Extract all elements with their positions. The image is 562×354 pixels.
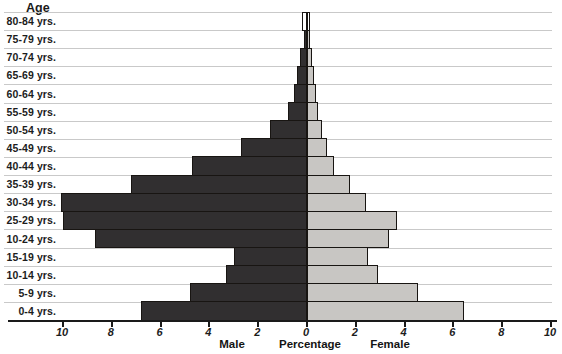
female-bar-50-54: [307, 120, 322, 139]
female-bar-0-4: [307, 301, 464, 320]
female-bar-45-49: [307, 138, 327, 157]
age-group-label: 40-44 yrs.: [0, 161, 56, 172]
age-group-label: 60-64 yrs.: [0, 88, 56, 99]
x-axis-line: [8, 320, 557, 322]
x-tick-label: 0: [294, 326, 318, 338]
female-bar-35-39: [307, 175, 350, 194]
female-bar-5-9: [307, 283, 418, 302]
row-gridline: [4, 48, 552, 49]
male-bar-55-59: [288, 102, 307, 121]
male-bar-65-69: [297, 66, 307, 85]
female-bar-10-14: [307, 265, 378, 284]
female-axis-label: Female: [370, 338, 410, 350]
female-bar-15-19: [307, 247, 368, 266]
male-bar-50-54: [270, 120, 307, 139]
female-bar-10-24: [307, 229, 389, 248]
age-group-label: 80-84 yrs.: [0, 16, 56, 27]
female-bar-65-69: [307, 66, 314, 85]
x-tick-label: 8: [489, 326, 513, 338]
male-bar-30-34: [61, 193, 307, 212]
age-group-label: 5-9 yrs.: [0, 288, 56, 299]
x-tick-label: 2: [343, 326, 367, 338]
female-bar-55-59: [307, 102, 318, 121]
male-axis-label: Male: [219, 338, 245, 350]
x-tick-label: 6: [440, 326, 464, 338]
male-bar-25-29: [63, 211, 307, 230]
male-bar-35-39: [131, 175, 307, 194]
x-tick-label: 10: [538, 326, 562, 338]
age-group-label: 15-19 yrs.: [0, 251, 56, 262]
x-tick-label: 2: [245, 326, 269, 338]
male-bar-60-64: [294, 84, 307, 103]
age-group-label: 30-34 yrs.: [0, 197, 56, 208]
age-group-label: 0-4 yrs.: [0, 306, 56, 317]
male-bar-5-9: [190, 283, 307, 302]
row-gridline: [4, 66, 552, 67]
x-tick-label: 6: [148, 326, 172, 338]
x-tick-label: 4: [196, 326, 220, 338]
percentage-axis-label: Percentage: [279, 338, 341, 350]
male-bar-70-74: [300, 48, 307, 67]
row-gridline: [4, 103, 552, 104]
age-group-label: 10-14 yrs.: [0, 269, 56, 280]
row-gridline: [4, 30, 552, 31]
age-group-label: 10-24 yrs.: [0, 233, 56, 244]
x-tick-label: 4: [392, 326, 416, 338]
female-bar-25-29: [307, 211, 397, 230]
age-group-label: 65-69 yrs.: [0, 70, 56, 81]
x-tick-label: 10: [50, 326, 74, 338]
female-bar-40-44: [307, 156, 334, 175]
age-group-label: 50-54 yrs.: [0, 125, 56, 136]
row-gridline: [4, 84, 552, 85]
x-tick-label: 8: [99, 326, 123, 338]
female-bar-75-79: [307, 30, 310, 49]
age-group-label: 75-79 yrs.: [0, 34, 56, 45]
age-group-label: 35-39 yrs.: [0, 179, 56, 190]
male-bar-40-44: [192, 156, 307, 175]
male-bar-10-24: [95, 229, 307, 248]
age-group-label: 25-29 yrs.: [0, 215, 56, 226]
male-bar-45-49: [241, 138, 307, 157]
population-pyramid-chart: Age 80-84 yrs.75-79 yrs.70-74 yrs.65-69 …: [0, 0, 562, 354]
female-bar-80-84: [307, 12, 310, 31]
male-bar-0-4: [141, 301, 307, 320]
age-group-label: 55-59 yrs.: [0, 106, 56, 117]
age-group-label: 70-74 yrs.: [0, 52, 56, 63]
row-gridline: [4, 12, 552, 13]
male-bar-15-19: [234, 247, 307, 266]
female-bar-70-74: [307, 48, 312, 67]
female-bar-60-64: [307, 84, 316, 103]
male-bar-10-14: [226, 265, 307, 284]
female-bar-30-34: [307, 193, 366, 212]
age-group-label: 45-49 yrs.: [0, 143, 56, 154]
